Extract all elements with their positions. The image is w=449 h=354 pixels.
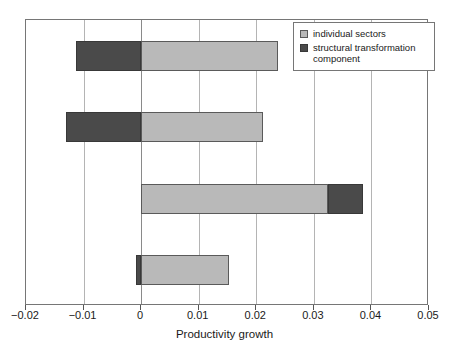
bar-row — [26, 255, 427, 285]
x-tick-label-3: 0.01 — [187, 309, 208, 321]
bar-segment-structural-transformation — [66, 112, 141, 142]
bar-segment-structural-transformation — [328, 184, 363, 214]
bar-segment-individual-sectors — [141, 255, 229, 285]
legend-label-individual-sectors: individual sectors — [313, 28, 386, 39]
x-tick-label-6: 0.04 — [360, 309, 381, 321]
x-tick-label-7: 0.05 — [417, 309, 438, 321]
legend-swatch-sectors-icon — [300, 30, 308, 38]
x-axis-label: Productivity growth — [0, 328, 449, 340]
legend-swatch-structural-icon — [300, 44, 308, 52]
legend-item-structural-transformation: structural transformation component — [300, 42, 428, 64]
bar-segment-structural-transformation — [76, 41, 141, 71]
bar-segment-individual-sectors — [141, 184, 328, 214]
x-tick-label-1: −0.01 — [69, 309, 97, 321]
bar-segment-structural-transformation — [136, 255, 141, 285]
chart-legend: individual sectors structural transforma… — [293, 22, 435, 71]
bar-row — [26, 184, 427, 214]
x-tick-label-5: 0.03 — [302, 309, 323, 321]
bar-segment-individual-sectors — [141, 41, 277, 71]
bar-segment-individual-sectors — [141, 112, 262, 142]
legend-label-structural-transformation: structural transformation component — [313, 42, 428, 64]
bar-row — [26, 112, 427, 142]
x-tick-label-0: −0.02 — [11, 309, 39, 321]
legend-item-individual-sectors: individual sectors — [300, 28, 428, 39]
x-tick-label-4: 0.02 — [245, 309, 266, 321]
chart-figure: Latin America Africa Asia High income −0… — [0, 0, 449, 354]
x-tick-label-2: 0 — [137, 309, 143, 321]
